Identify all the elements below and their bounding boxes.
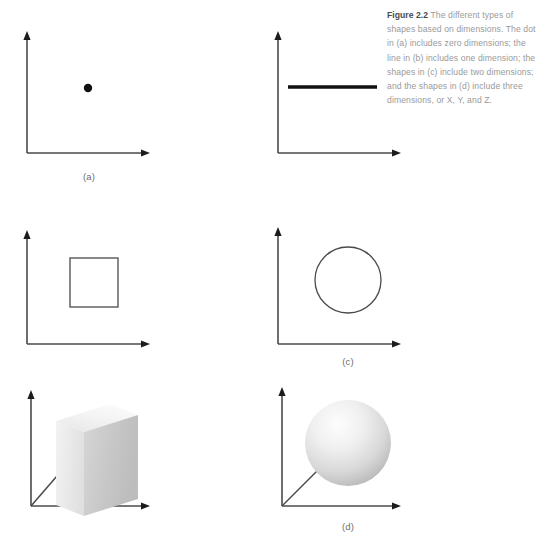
y-axis-arrowhead-d-right bbox=[278, 387, 285, 396]
figure-2-2: Figure 2.2 The different types of shapes… bbox=[0, 0, 541, 551]
x-axis-arrowhead-d-right bbox=[392, 502, 401, 509]
panel-c-square bbox=[0, 225, 200, 360]
z-axis-line-d-right bbox=[282, 467, 321, 506]
x-axis-arrowhead-a bbox=[141, 149, 150, 156]
x-axis-arrowhead-c-left bbox=[141, 340, 150, 347]
y-axis-arrowhead-c-left bbox=[23, 230, 30, 239]
axes-2d-c-left bbox=[23, 230, 150, 348]
y-axis-arrowhead-a bbox=[23, 31, 30, 40]
panel-c-circle-graphic bbox=[255, 225, 455, 360]
panel-d-sphere: (d) bbox=[255, 385, 465, 525]
axes-2d-c-right bbox=[274, 227, 401, 348]
x-axis-arrowhead-d-left bbox=[141, 502, 150, 509]
square-shape bbox=[70, 258, 118, 307]
y-axis-arrowhead-b bbox=[274, 31, 281, 40]
panel-a-graphic bbox=[0, 0, 200, 175]
panel-d-cube bbox=[0, 385, 210, 525]
panel-d-cube-graphic bbox=[0, 385, 210, 525]
panel-c-circle: (c) bbox=[255, 225, 455, 360]
axes-2d-a bbox=[23, 31, 150, 157]
panel-label-a: (a) bbox=[83, 171, 95, 182]
cube-front-face bbox=[56, 421, 84, 516]
panel-c-square-graphic bbox=[0, 225, 200, 360]
panel-label-d: (d) bbox=[342, 521, 354, 532]
panel-a: (a) bbox=[0, 0, 200, 175]
z-axis-line-d-left bbox=[31, 476, 57, 506]
panel-label-c: (c) bbox=[342, 356, 354, 367]
sphere-shape bbox=[305, 400, 391, 486]
circle-shape bbox=[315, 247, 381, 313]
x-axis-arrowhead-c-right bbox=[392, 340, 401, 347]
x-axis-arrowhead-b bbox=[392, 149, 401, 156]
cube-shape bbox=[56, 404, 138, 516]
panel-d-sphere-graphic bbox=[255, 385, 465, 525]
y-axis-arrowhead-c-right bbox=[274, 227, 281, 236]
dot-shape bbox=[84, 84, 92, 92]
panel-b-graphic bbox=[255, 0, 455, 175]
axes-2d-b bbox=[274, 31, 401, 157]
cube-side-face bbox=[84, 415, 138, 516]
y-axis-arrowhead-d-left bbox=[27, 390, 34, 399]
panel-b: (b) bbox=[255, 0, 455, 175]
